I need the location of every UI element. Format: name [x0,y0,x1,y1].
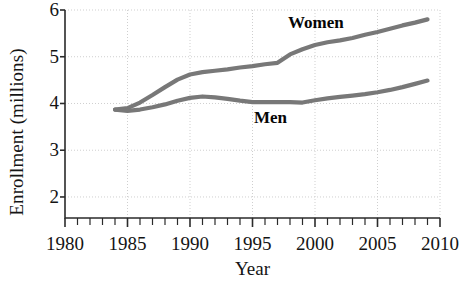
x-tick-label: 2005 [348,234,408,253]
axis-spine [65,10,440,218]
x-tick-label: 1995 [223,234,283,253]
x-axis-tick-labels: 1980198519901995200020052010 [0,234,455,258]
x-tick-label: 2000 [285,234,345,253]
series-line-women [115,19,428,109]
grid-layer [65,10,440,218]
x-tick-label: 1985 [98,234,158,253]
axis-spines [65,10,440,218]
tick-marks-layer [60,10,440,227]
data-series-layer [115,19,428,111]
x-tick-label: 1980 [35,234,95,253]
plot-svg [65,10,440,218]
series-label-men: Men [254,109,287,126]
y-tick-label: 2 [37,187,59,206]
x-tick-label: 1990 [160,234,220,253]
series-label-women: Women [288,14,344,31]
y-axis-title: Enrollment (millions) [0,17,34,247]
x-axis-title: Year [65,258,440,280]
y-tick-label: 5 [37,47,59,66]
series-line-men [115,81,428,111]
y-tick-label: 4 [37,93,59,112]
x-tick-label: 2010 [410,234,463,253]
plot-area [65,10,440,218]
y-tick-label: 3 [37,140,59,159]
y-tick-label: 6 [37,0,59,19]
